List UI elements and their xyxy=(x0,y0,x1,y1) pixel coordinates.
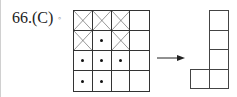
cross-mark-icon xyxy=(112,31,130,50)
arrow-right-icon xyxy=(157,54,185,62)
shape-square xyxy=(209,30,229,51)
cross-mark-icon xyxy=(112,11,130,30)
grid-cell-dot xyxy=(93,71,112,91)
shape-square xyxy=(190,69,210,90)
dot-mark-icon xyxy=(100,59,103,62)
dot-mark-icon xyxy=(119,59,122,62)
dot-mark-icon xyxy=(81,59,84,62)
separator-mark: ◦ xyxy=(58,13,61,23)
grid-cell-dot xyxy=(74,51,93,71)
cross-mark-icon xyxy=(93,11,111,30)
shape-square xyxy=(209,49,229,70)
grid-cell-x xyxy=(112,31,131,51)
shape-square xyxy=(209,69,229,90)
grid-cell-empty xyxy=(112,71,131,91)
grid-cell-x xyxy=(74,11,93,31)
marked-grid xyxy=(73,10,150,92)
grid-cell-x xyxy=(93,11,112,31)
shape-square xyxy=(209,10,229,31)
cross-mark-icon xyxy=(74,31,92,50)
grid-cell-x xyxy=(74,31,93,51)
grid-cell-dot xyxy=(93,31,112,51)
dot-mark-icon xyxy=(100,39,103,42)
grid-cell-dot xyxy=(112,51,131,71)
grid-cell-dot xyxy=(93,51,112,71)
left-border xyxy=(0,0,1,97)
grid-cell-empty xyxy=(130,71,149,91)
grid-cell-x xyxy=(112,11,131,31)
grid-cell-dot xyxy=(74,71,93,91)
grid-cell-empty xyxy=(130,31,149,51)
dot-mark-icon xyxy=(81,80,84,83)
grid-cell-empty xyxy=(130,51,149,71)
question-label: 66.(C) xyxy=(12,9,53,27)
result-l-shape xyxy=(190,10,230,92)
dot-mark-icon xyxy=(100,80,103,83)
grid-cell-empty xyxy=(130,11,149,31)
cross-mark-icon xyxy=(74,11,92,30)
